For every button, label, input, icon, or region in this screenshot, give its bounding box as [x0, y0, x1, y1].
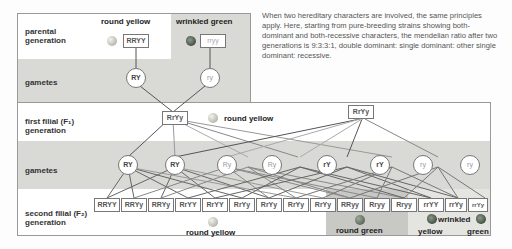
f1-right-genotype: RrYy [348, 105, 374, 119]
parental-right-phenotype: wrinkled green [176, 17, 232, 26]
row-label-gametes-2: gametes [25, 166, 57, 175]
yellow-wrinkled-pea-icon [427, 214, 437, 224]
row-label-f2: second filial (F₂) generation [25, 209, 101, 227]
f2-phenotype-round-green: round green [336, 226, 383, 235]
f2-phenotype-wrinkled-yellow: yellow [418, 227, 442, 236]
gamete-circle: rY [317, 155, 337, 175]
yellow-round-pea-icon [208, 217, 218, 227]
f2-genotype: RRYY [94, 198, 120, 212]
gamete-circle: RY [165, 155, 185, 175]
yellow-round-pea-icon [208, 113, 218, 123]
f2-genotype: RrYy [229, 198, 255, 212]
f1-left-genotype: RrYy [162, 111, 188, 125]
f2-genotype: rrYY [418, 198, 444, 212]
gamete-circle: RY [118, 155, 138, 175]
f2-genotype: RrYY [202, 198, 228, 212]
f2-genotype: RRYy [121, 198, 147, 212]
row-label-f1: first filial (F₁) generation [25, 117, 97, 135]
parental-left-genotype: RRYY [123, 34, 149, 48]
row-label-gametes-1: gametes [25, 78, 57, 87]
green-wrinkled-pea-icon [476, 214, 486, 224]
parental-left-phenotype: round yellow [101, 17, 150, 26]
f2-genotype: RrYy [283, 198, 309, 212]
gamete-circle: ry [200, 68, 220, 88]
gamete-circle: ry [460, 155, 480, 175]
f2-phenotype-wrinkled-green: green [467, 227, 489, 236]
f2-genotype: RRyy [337, 198, 363, 212]
gamete-circle: ry [413, 155, 433, 175]
row-label-parental: parental generation [25, 27, 85, 45]
green-wrinkled-pea-icon [186, 36, 196, 46]
gamete-circle: rY [370, 155, 390, 175]
f2-genotype: Rryy [364, 198, 390, 212]
gamete-circle: Ry [217, 155, 237, 175]
f2-genotype: rrYy [445, 198, 467, 212]
f2-genotype: RRYy [148, 198, 174, 212]
f2-phenotype-wrinkled: wrinkled [438, 215, 470, 224]
description-text: When two hereditary characters are invol… [262, 11, 498, 61]
green-round-pea-icon [355, 215, 365, 225]
f2-genotype: RrYy [310, 198, 336, 212]
f2-genotype: rrYy [468, 198, 488, 212]
gamete-circle: RY [126, 68, 146, 88]
f1-phenotype: round yellow [224, 114, 273, 123]
gamete-circle: Ry [262, 155, 282, 175]
f2-genotype: RrYy [256, 198, 282, 212]
parental-right-genotype: rryy [200, 34, 226, 48]
f2-genotype: Rryy [391, 198, 417, 212]
yellow-round-pea-icon [107, 36, 117, 46]
f2-genotype: RrYY [175, 198, 201, 212]
f2-phenotype-round-yellow: round yellow [186, 228, 235, 237]
